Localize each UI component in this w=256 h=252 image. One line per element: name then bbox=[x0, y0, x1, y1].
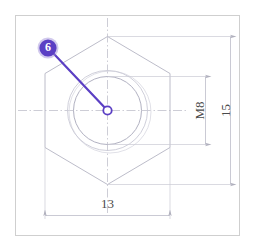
technical-drawing-canvas: 15 M8 13 6 bbox=[0, 0, 256, 252]
callout-balloon-6[interactable]: 6 bbox=[38, 38, 59, 59]
center-point-mark bbox=[103, 106, 111, 114]
dimension-label-m8: M8 bbox=[192, 101, 207, 119]
dimension-label-15: 15 bbox=[218, 104, 233, 117]
drawing-svg: 15 M8 13 6 bbox=[0, 0, 256, 252]
callout-balloon-label: 6 bbox=[45, 40, 51, 54]
dimension-label-13: 13 bbox=[101, 196, 114, 211]
